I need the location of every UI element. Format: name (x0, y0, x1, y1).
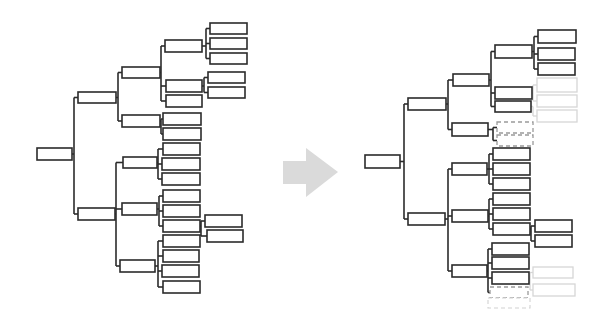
tree-connector-e (155, 241, 163, 287)
tree-connector-b (488, 128, 497, 141)
tree-after-node-b3 (495, 101, 531, 112)
tree-connector-root (72, 98, 78, 215)
tree-connector-u (446, 80, 453, 130)
figure-canvas (0, 0, 614, 332)
transform-arrow-icon (283, 148, 338, 197)
tree-after-node-d1 (497, 122, 533, 133)
tree-connector-b2 (202, 78, 208, 93)
tree-after-node-b7 (493, 163, 530, 175)
tree-after-node-b11 (493, 223, 530, 235)
tree-after-node-root (365, 155, 400, 168)
tree-connector-a (160, 46, 166, 101)
tree-before-node-b5 (163, 128, 201, 140)
tree-after-node-b1 (495, 45, 532, 58)
tree-after-node-b14 (492, 272, 529, 284)
tree-after-node-d4 (488, 298, 530, 308)
tree-before-node-e (120, 260, 155, 272)
tree-after-node-l3 (538, 63, 575, 75)
tree-after-node-e (452, 265, 487, 277)
tree-connector-l (445, 169, 452, 271)
tree-before-node-b15 (163, 281, 200, 293)
tree-after-node-b6 (493, 148, 530, 160)
tree-connector-b3 (531, 107, 537, 117)
tree-after-node-d3 (490, 287, 528, 298)
tree-before-node-l6 (205, 215, 242, 227)
tree-after-node-g2 (537, 95, 577, 107)
tree-after-node-c (452, 163, 487, 175)
tree-connector-b1 (532, 37, 538, 70)
tree-before-node-b7 (162, 158, 200, 170)
tree-before-node-l4 (208, 72, 245, 83)
tree-before-node-d (122, 203, 157, 215)
tree-before-node-b3 (166, 95, 202, 107)
tree-after-node-u (408, 98, 446, 110)
tree-after-node-g1 (537, 78, 577, 92)
tree-after-node-b2 (495, 87, 532, 99)
tree-after-node-g3 (537, 110, 577, 122)
tree-before-node-u (78, 92, 116, 103)
tree-connector-u (116, 73, 122, 122)
tree-before-node-root (37, 148, 72, 160)
tree-before-node-b13 (163, 250, 199, 262)
tree-after-node-d2 (497, 135, 533, 146)
tree-before-node-l (78, 208, 115, 220)
tree-before-node-l1 (210, 23, 247, 34)
tree-before-node-b12 (163, 235, 200, 247)
tree-connector-d (157, 196, 163, 226)
tree-before-node-b8 (162, 173, 200, 185)
tree-before-node-b (122, 115, 160, 127)
tree-after-node-l6 (535, 220, 572, 232)
tree-before-node-b6 (163, 143, 200, 155)
tree-after-node-b9 (493, 193, 530, 205)
tree-connector-c (487, 154, 493, 184)
tree-diagram-svg (0, 0, 614, 332)
tree-after-node-b8 (493, 178, 530, 190)
tree-before (37, 23, 247, 293)
tree-before-node-l5 (208, 87, 245, 98)
tree-after-node-l (408, 213, 445, 225)
tree-before-node-b1 (165, 40, 202, 52)
tree-after-node-b13 (492, 257, 529, 269)
tree-before-node-b14 (162, 265, 199, 277)
tree-before-node-c (123, 157, 157, 168)
tree-after-node-g4 (533, 267, 573, 278)
tree-after-node-g5 (533, 284, 575, 296)
tree-before-node-l2 (210, 38, 247, 49)
tree-after-node-b10 (493, 208, 530, 220)
tree-before-node-b4 (163, 113, 201, 125)
tree-after-node-b (452, 123, 488, 136)
tree-before-node-a (122, 67, 160, 78)
tree-before-node-b2 (166, 80, 202, 92)
tree-after-node-l1 (538, 30, 576, 43)
tree-before-node-b11 (163, 220, 200, 232)
tree-after-node-b12 (492, 243, 529, 255)
tree-before-node-b9 (163, 190, 200, 202)
tree-after-node-d (452, 210, 488, 222)
tree-connector-b1 (202, 29, 210, 59)
tree-before-node-l7 (207, 230, 243, 242)
tree-before-node-l3 (210, 53, 247, 64)
tree-after (365, 30, 577, 308)
tree-connector-a (489, 52, 495, 107)
tree-before-node-b10 (163, 205, 200, 217)
tree-after-node-l2 (538, 48, 575, 60)
tree-after-node-l7 (535, 235, 572, 247)
tree-connector-root (400, 104, 408, 219)
tree-after-node-a (453, 74, 489, 86)
